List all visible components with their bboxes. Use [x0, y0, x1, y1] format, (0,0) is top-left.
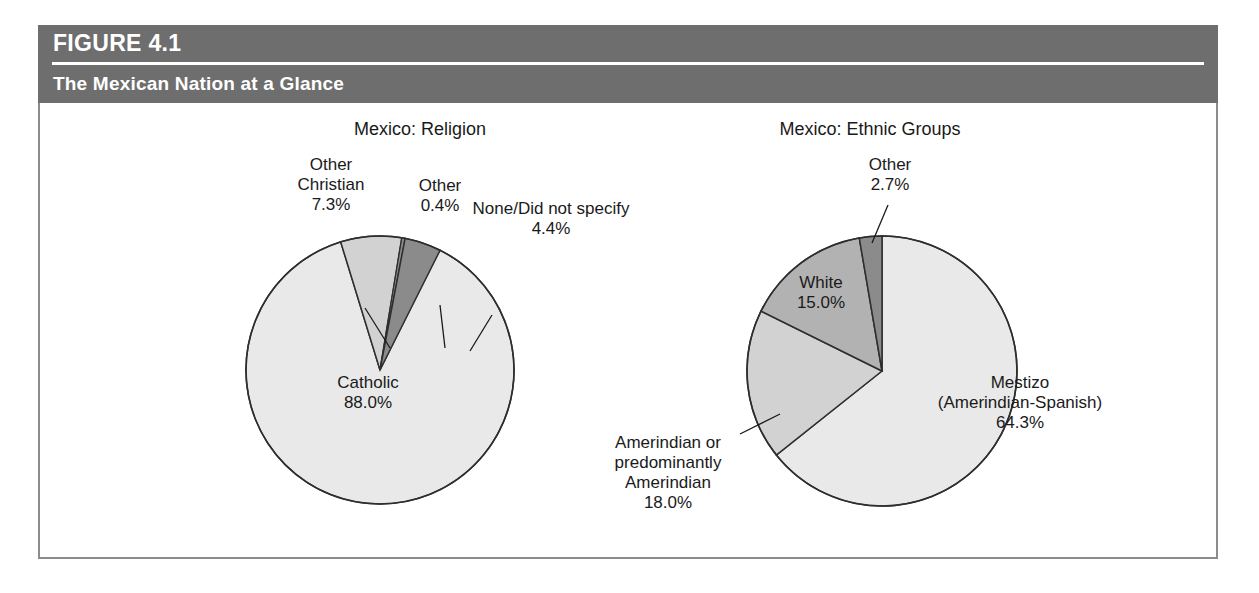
- figure-number: FIGURE 4.1: [53, 30, 181, 57]
- figure-number-bar: FIGURE 4.1: [38, 25, 1218, 62]
- label-amerindian: Amerindian or predominantly Amerindian 1…: [588, 433, 748, 513]
- label-ethnic-other: Other 2.7%: [840, 155, 940, 195]
- figure-header: FIGURE 4.1 The Mexican Nation at a Glanc…: [38, 25, 1218, 103]
- figure-container: FIGURE 4.1 The Mexican Nation at a Glanc…: [38, 25, 1218, 566]
- figure-title: The Mexican Nation at a Glance: [53, 73, 344, 95]
- label-mestizo: Mestizo (Amerindian-Spanish) 64.3%: [900, 373, 1140, 433]
- label-white: White 15.0%: [766, 273, 876, 313]
- figure-body: Mexico: Religion Mexico: Ethnic Groups: [38, 103, 1218, 559]
- figure-title-bar: The Mexican Nation at a Glance: [38, 65, 1218, 103]
